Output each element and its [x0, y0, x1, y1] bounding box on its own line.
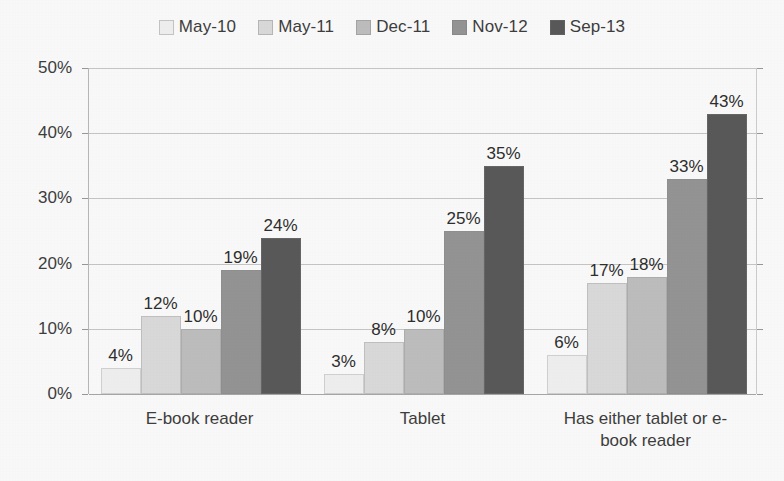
legend-swatch-icon	[159, 20, 174, 35]
y-axis-tick-right	[757, 198, 763, 199]
legend-item-sep-13[interactable]: Sep-13	[550, 17, 625, 37]
bar[interactable]	[484, 166, 524, 394]
legend-swatch-icon	[258, 20, 273, 35]
legend-item-may-10[interactable]: May-10	[159, 17, 236, 37]
legend-label: May-10	[179, 17, 236, 37]
legend-swatch-icon	[452, 20, 467, 35]
legend-swatch-icon	[356, 20, 371, 35]
plot-area: 4%12%10%19%24%3%8%10%25%35%6%17%18%33%43…	[88, 68, 757, 394]
bar[interactable]	[101, 368, 141, 394]
category-label: Tablet	[311, 408, 534, 430]
bar[interactable]	[667, 179, 707, 394]
bar[interactable]	[707, 114, 747, 394]
y-axis-tick-label: 40%	[12, 123, 72, 143]
y-axis-tick-label: 50%	[12, 58, 72, 78]
legend-swatch-icon	[550, 20, 565, 35]
y-axis-tick	[82, 394, 88, 395]
y-axis-tick-label: 30%	[12, 188, 72, 208]
bar[interactable]	[444, 231, 484, 394]
y-axis-tick-right	[757, 68, 763, 69]
bar[interactable]	[324, 374, 364, 394]
category-label-line: Tablet	[311, 408, 534, 430]
bar-value-label: 35%	[472, 144, 536, 164]
y-axis-tick-right	[757, 133, 763, 134]
bar[interactable]	[364, 342, 404, 394]
gridline	[89, 394, 756, 395]
bar[interactable]	[627, 277, 667, 394]
category-label-line: Has either tablet or e-	[534, 408, 757, 430]
legend-item-may-11[interactable]: May-11	[258, 17, 334, 37]
bar[interactable]	[404, 329, 444, 394]
legend-label: Sep-13	[570, 17, 625, 37]
legend-item-dec-11[interactable]: Dec-11	[356, 17, 430, 37]
y-axis-tick-right	[757, 394, 763, 395]
category-label: E-book reader	[88, 408, 311, 430]
y-axis-tick-label: 20%	[12, 254, 72, 274]
gridline	[89, 133, 756, 134]
bar[interactable]	[141, 316, 181, 394]
legend-label: Nov-12	[472, 17, 527, 37]
gridline	[89, 68, 756, 69]
bar[interactable]	[221, 270, 261, 394]
bar-value-label: 43%	[695, 92, 759, 112]
y-axis-tick-label: 0%	[12, 384, 72, 404]
bar[interactable]	[547, 355, 587, 394]
bar[interactable]	[181, 329, 221, 394]
bar[interactable]	[587, 283, 627, 394]
y-axis-tick-right	[757, 264, 763, 265]
gridline	[89, 198, 756, 199]
category-label: Has either tablet or e-book reader	[534, 408, 757, 452]
bar-value-label: 24%	[249, 216, 313, 236]
y-axis-tick-label: 10%	[12, 319, 72, 339]
chart-legend: May-10May-11Dec-11Nov-12Sep-13	[0, 12, 784, 42]
y-axis-tick-right	[757, 329, 763, 330]
legend-item-nov-12[interactable]: Nov-12	[452, 17, 527, 37]
bar[interactable]	[261, 238, 301, 394]
category-label-line: E-book reader	[88, 408, 311, 430]
bar-chart: May-10May-11Dec-11Nov-12Sep-13 0%10%20%3…	[0, 0, 784, 481]
legend-label: Dec-11	[376, 17, 430, 37]
legend-label: May-11	[278, 17, 334, 37]
category-label-line: book reader	[534, 430, 757, 452]
